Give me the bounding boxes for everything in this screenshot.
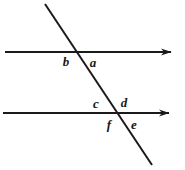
transversal-line — [45, 4, 152, 165]
angle-label-b: b — [63, 55, 70, 68]
angle-label-e: e — [131, 118, 137, 131]
geometry-diagram: b a c d f e — [0, 0, 185, 170]
angle-label-f: f — [107, 118, 111, 131]
angle-label-d: d — [121, 96, 128, 109]
figure-canvas — [0, 0, 185, 170]
angle-label-c: c — [93, 97, 99, 110]
angle-label-a: a — [90, 56, 97, 69]
